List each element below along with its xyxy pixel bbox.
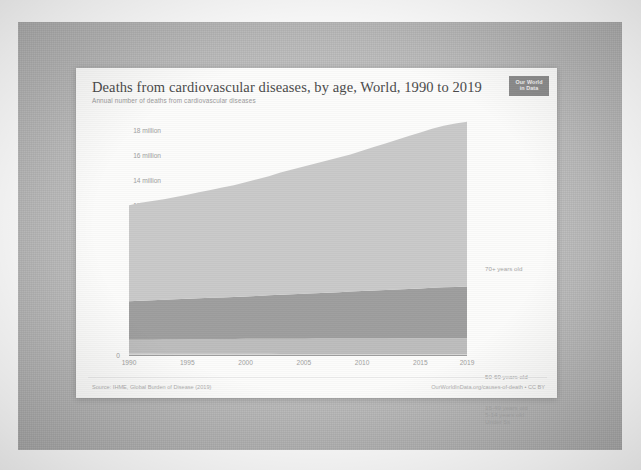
x-axis-tick-label: 1995 bbox=[180, 359, 195, 366]
footer-divider bbox=[88, 377, 547, 378]
area-series-70-years-old bbox=[129, 122, 467, 301]
chart-card: Deaths from cardiovascular diseases, by … bbox=[76, 68, 557, 398]
series-label: Under 5s bbox=[485, 418, 510, 425]
chart-title: Deaths from cardiovascular diseases, by … bbox=[92, 79, 512, 96]
x-axis-tick-label: 2015 bbox=[413, 359, 428, 366]
logo-line-2: in Data bbox=[520, 86, 539, 92]
screenshot-stage: Deaths from cardiovascular diseases, by … bbox=[0, 0, 641, 470]
series-label: 5-14 years old bbox=[485, 411, 524, 418]
series-label: 15-49 years old bbox=[485, 404, 528, 411]
our-world-in-data-logo[interactable]: Our World in Data bbox=[509, 76, 549, 96]
x-axis-tick-label: 2010 bbox=[355, 359, 370, 366]
plot-clip bbox=[129, 118, 467, 355]
x-axis-tick-label: 2019 bbox=[460, 359, 475, 366]
stacked-area-chart bbox=[129, 118, 467, 355]
credit-note: OurWorldInData.org/causes-of-death • CC … bbox=[431, 384, 545, 390]
series-label: 70+ years old bbox=[485, 265, 522, 272]
x-axis-tick-label: 1990 bbox=[122, 359, 137, 366]
x-axis-line bbox=[129, 355, 467, 356]
x-axis-tick-label: 2000 bbox=[238, 359, 253, 366]
x-axis-tick-label: 2005 bbox=[296, 359, 311, 366]
source-note: Source: IHME, Global Burden of Disease (… bbox=[92, 384, 211, 390]
y-axis-tick-label: 0 bbox=[116, 352, 120, 359]
plot-area bbox=[129, 118, 467, 355]
area-series-15-49-years-old bbox=[129, 338, 467, 354]
chart-subtitle: Annual number of deaths from cardiovascu… bbox=[92, 97, 392, 104]
